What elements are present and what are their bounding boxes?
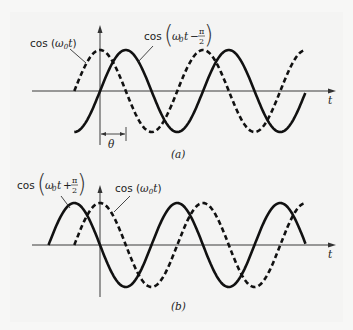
svg-text:): ) [77,170,86,198]
svg-text:cos: cos [144,30,162,42]
svg-text:cos: cos [17,179,35,191]
figure: t θ cos (ω0t) cos ( ω 0 t − π 2 ) (a) [0,0,353,330]
svg-text:): ) [204,21,213,49]
svg-text:cos (ω0t): cos (ω0t) [30,37,76,51]
caption-b: (b) [171,300,186,312]
label-cos-w0t-b: cos (ω0t) [115,182,161,196]
svg-text:+: + [63,179,72,191]
caption-a: (a) [171,148,185,160]
label-cos-w0t-a: cos (ω0t) [30,37,76,51]
svg-text:−: − [190,30,199,42]
svg-text:cos (ω0t): cos (ω0t) [115,182,161,196]
theta-label: θ [108,138,115,150]
figure-background [10,12,343,322]
